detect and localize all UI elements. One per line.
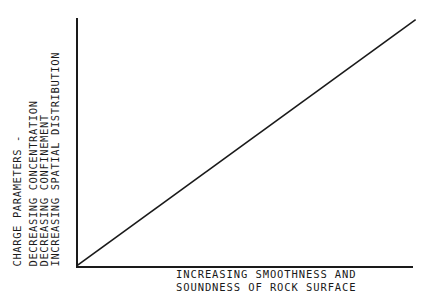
x-axis-label-line-1: INCREASING SMOOTHNESS AND (176, 268, 426, 281)
trend-line (78, 20, 415, 265)
y-axis-label: CHARGE PARAMETERS - DECREASING CONCENTRA… (0, 0, 74, 268)
y-axis-label-line-2: DECREASING CONCENTRATION (28, 100, 39, 266)
y-axis-label-line-4: INCREASING SPATIAL DISTRIBUTION (50, 51, 61, 266)
chart-figure: CHARGE PARAMETERS - DECREASING CONCENTRA… (0, 0, 429, 298)
x-axis-label-line-2: SOUNDNESS OF ROCK SURFACE (176, 281, 426, 294)
y-axis-line (76, 18, 78, 268)
x-axis-label: INCREASING SMOOTHNESS AND SOUNDNESS OF R… (176, 268, 426, 293)
y-axis-label-line-1: CHARGE PARAMETERS - (12, 134, 23, 266)
y-axis-label-line-3: DECREASING CONFINEMENT (39, 114, 50, 266)
